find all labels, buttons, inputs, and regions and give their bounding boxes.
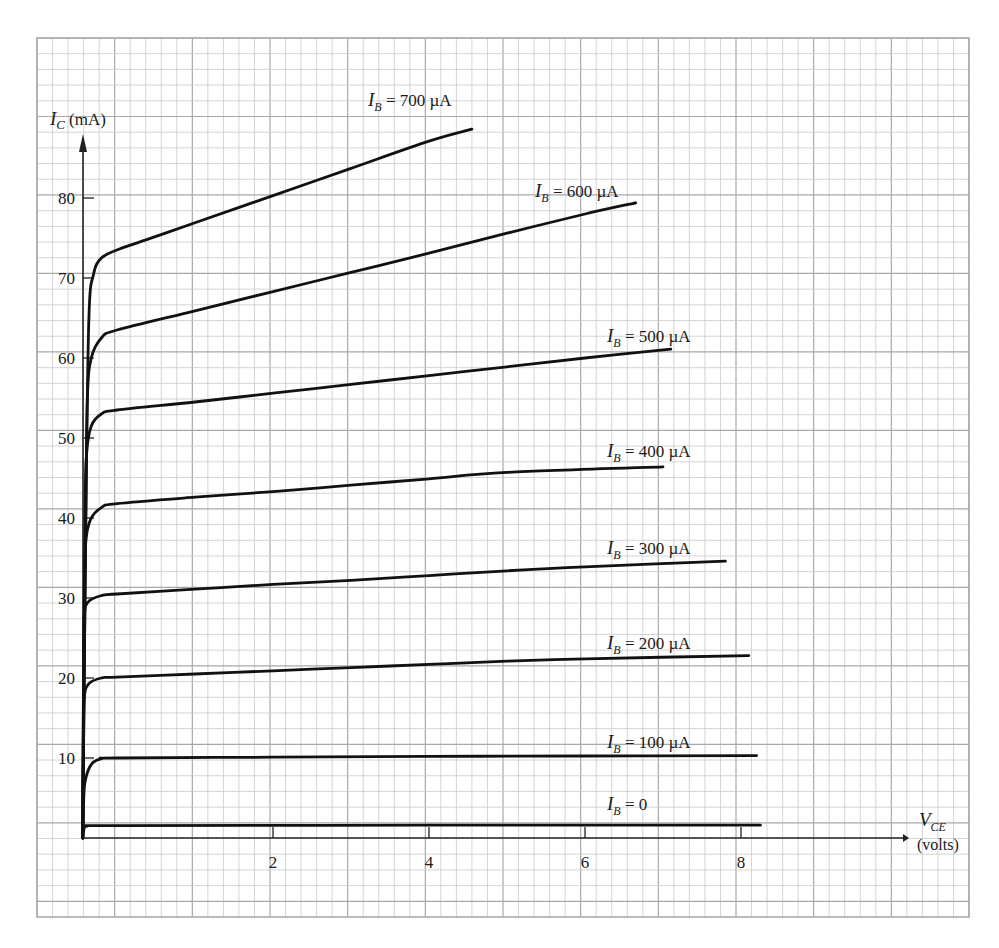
x-tick-label: 4 — [425, 853, 434, 872]
transistor-characteristics-chart: 10203040506070802468 IC(mA)VCE(volts)IB … — [0, 0, 999, 948]
y-tick-label: 70 — [58, 269, 75, 288]
curve-i-b-500-a — [83, 349, 671, 838]
y-tick-label: 10 — [58, 749, 75, 768]
curve-label: IB = 400 µA — [606, 440, 691, 465]
y-tick-label: 20 — [58, 669, 75, 688]
curve-i-b-400-a — [83, 467, 663, 838]
y-tick-label: 30 — [58, 589, 75, 608]
y-tick-label: 50 — [58, 429, 75, 448]
curve-label: IB = 500 µA — [606, 325, 691, 350]
curve-label: IB = 600 µA — [534, 180, 619, 205]
axes: 10203040506070802468 — [58, 134, 909, 872]
x-tick-label: 2 — [269, 853, 278, 872]
y-tick-label: 80 — [58, 189, 75, 208]
y-tick-label: 40 — [58, 509, 75, 528]
x-axis-arrow-icon — [903, 834, 909, 842]
graph-paper-grid — [37, 38, 969, 917]
curve-label: IB = 100 µA — [606, 731, 691, 756]
x-tick-label: 8 — [737, 853, 746, 872]
curve-label: IB = 200 µA — [606, 632, 691, 657]
curve-i-b-700-a — [83, 129, 472, 838]
y-tick-label: 60 — [58, 349, 75, 368]
x-tick-label: 6 — [581, 853, 590, 872]
y-axis-arrow-icon — [79, 134, 87, 152]
curve-label: IB = 300 µA — [606, 537, 691, 562]
curve-label: IB = 0 — [606, 793, 647, 818]
x-axis-unit: (volts) — [917, 836, 959, 854]
x-axis-title: VCE — [919, 809, 947, 834]
curve-i-b-600-a — [83, 203, 636, 838]
y-axis-title: IC(mA) — [49, 108, 106, 132]
